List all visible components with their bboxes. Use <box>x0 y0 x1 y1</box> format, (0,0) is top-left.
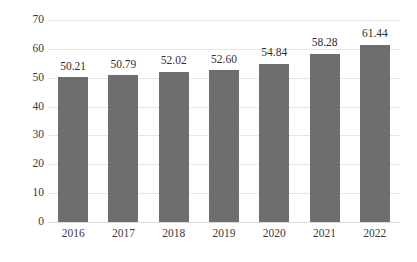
bar-group: 52.02 <box>149 20 199 222</box>
bar[interactable] <box>259 64 289 222</box>
bar-chart: 50.2150.7952.0252.6054.8458.2861.44 0102… <box>0 0 417 262</box>
y-axis-tick-label: 20 <box>4 159 44 171</box>
bar[interactable] <box>209 70 239 222</box>
y-axis-tick-label: 30 <box>4 130 44 142</box>
bar-value-label: 54.84 <box>261 47 287 59</box>
y-axis-tick-label: 0 <box>4 216 44 228</box>
x-axis-tick-label: 2022 <box>345 228 405 240</box>
bar-group: 54.84 <box>249 20 299 222</box>
bar[interactable] <box>360 45 390 222</box>
plot-area: 50.2150.7952.0252.6054.8458.2861.44 <box>48 20 400 222</box>
bar-value-label: 52.60 <box>211 54 237 66</box>
bar-group: 52.60 <box>199 20 249 222</box>
bar-group: 50.79 <box>98 20 148 222</box>
bar-value-label: 58.28 <box>312 37 338 49</box>
bar[interactable] <box>58 77 88 222</box>
bar[interactable] <box>159 72 189 222</box>
bar-group: 61.44 <box>350 20 400 222</box>
axis-baseline <box>48 222 400 223</box>
bar-value-label: 52.02 <box>161 55 187 67</box>
y-axis-tick-label: 60 <box>4 43 44 55</box>
y-axis-tick-label: 70 <box>4 14 44 26</box>
bar[interactable] <box>108 75 138 222</box>
bar[interactable] <box>310 54 340 222</box>
bar-value-label: 50.79 <box>110 59 136 71</box>
bar-group: 58.28 <box>299 20 349 222</box>
y-axis-tick-label: 50 <box>4 72 44 84</box>
y-axis-tick-label: 40 <box>4 101 44 113</box>
bar-group: 50.21 <box>48 20 98 222</box>
bar-value-label: 50.21 <box>60 61 86 73</box>
y-axis-tick-label: 10 <box>4 187 44 199</box>
bar-value-label: 61.44 <box>362 28 388 40</box>
